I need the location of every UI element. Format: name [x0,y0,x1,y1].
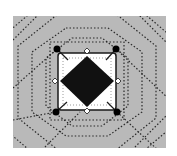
nested-octagon-diagram [0,0,177,156]
corner-dot-bottom-left[interactable] [53,109,60,116]
corner-dot-top-right[interactable] [113,46,120,53]
corner-dot-top-left[interactable] [54,46,61,53]
corner-dot-bottom-right[interactable] [114,109,121,116]
